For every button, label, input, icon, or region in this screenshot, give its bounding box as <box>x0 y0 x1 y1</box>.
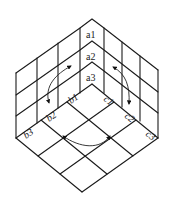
label-a3: a3 <box>86 72 95 83</box>
label-b2: b2 <box>44 109 59 124</box>
cube-diagram: a1 a2 a3 b1 b2 b3 c1 c2 c3 <box>0 0 172 204</box>
label-a2: a2 <box>86 51 95 62</box>
grid-lines <box>16 19 158 192</box>
label-b3: b3 <box>21 126 36 141</box>
floor-l-2 <box>60 120 136 174</box>
label-a1: a1 <box>86 29 95 40</box>
floor-l-3 <box>82 138 158 192</box>
cube-diagram-svg: a1 a2 a3 b1 b2 b3 c1 c2 c3 <box>0 0 172 204</box>
label-c3: c3 <box>144 128 158 142</box>
label-c1: c1 <box>102 93 116 107</box>
label-c2: c2 <box>123 110 137 124</box>
